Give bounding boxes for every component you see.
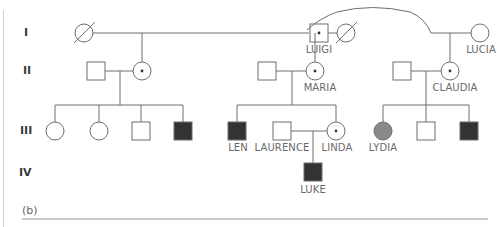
luke-symbol [304,163,322,181]
label-maria: MARIA [304,82,337,93]
pedigree-chart [0,0,497,227]
deceased-female-i3 [336,22,357,43]
len-symbol [228,122,246,140]
label-lucia: LUCIA [466,44,496,55]
male-iii10 [417,122,435,140]
label-luke: LUKE [300,184,326,195]
lucia-symbol [471,24,489,42]
affected-male-iii4 [174,122,192,140]
laurence-symbol [273,122,291,140]
pedigree-figure: I II III IV [0,0,497,227]
lydia-symbol [374,122,392,140]
male-ii5 [393,62,411,80]
male-iii3 [132,122,150,140]
female-iii1 [46,122,64,140]
carrier-female-ii2 [133,62,151,80]
label-luigi: LUIGI [306,44,333,55]
affected-male-iii11 [460,122,478,140]
bottom-rule [22,218,488,220]
label-linda: LINDA [322,142,353,153]
linda-symbol [327,122,345,140]
luigi-symbol [310,24,328,42]
label-lydia: LYDIA [369,142,397,153]
male-ii3 [258,62,276,80]
female-iii2 [90,122,108,140]
male-ii1 [87,62,105,80]
deceased-female-i1 [74,22,95,43]
label-laurence: LAURENCE [255,142,310,153]
claudia-symbol [441,62,459,80]
label-claudia: CLAUDIA [432,82,477,93]
label-len: LEN [228,142,248,153]
panel-label: (b) [22,204,38,217]
maria-symbol [306,62,324,80]
